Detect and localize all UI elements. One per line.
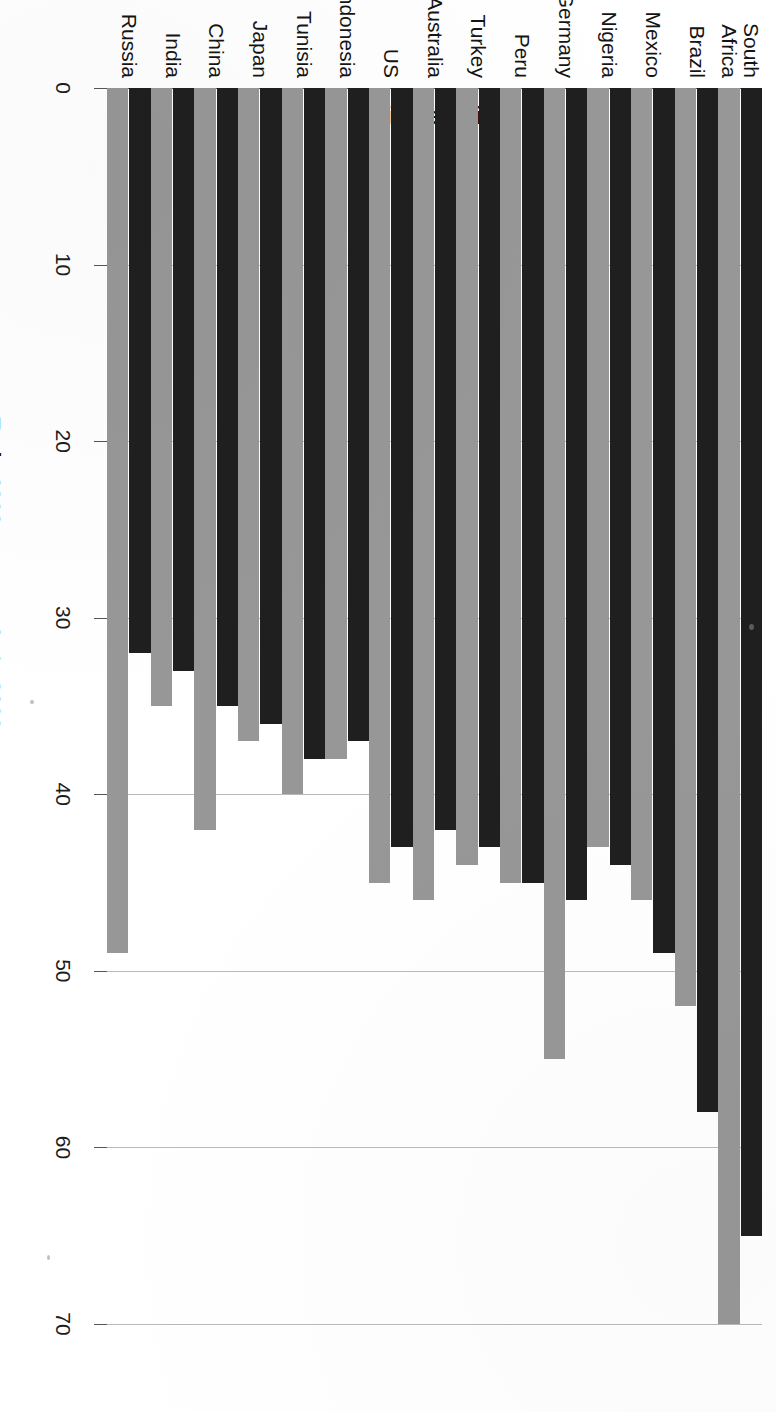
- bar-group: Japan: [238, 88, 282, 1324]
- bar-australia-early-1990s: [435, 88, 456, 830]
- bar-group: India: [151, 88, 195, 1324]
- category-label-brazil: Brazil: [685, 25, 707, 78]
- bar-germany-early-1990s: [566, 88, 587, 900]
- bar-brazil-early-1990s: [697, 88, 718, 1112]
- category-label-peru: Peru: [511, 34, 533, 78]
- bar-south-africa-early-1990s: [741, 88, 762, 1236]
- category-label-us: US: [380, 49, 402, 78]
- tick-label-10: 10: [51, 253, 75, 276]
- bar-group: Turkey: [456, 88, 500, 1324]
- bar-indonesia-late-2000s: [325, 88, 346, 759]
- gridline-70: [107, 1324, 762, 1325]
- bar-us-early-1990s: [392, 88, 413, 847]
- bar-group: Mexico: [631, 88, 675, 1324]
- bar-tunisia-early-1990s: [304, 88, 325, 759]
- bar-nigeria-early-1990s: [610, 88, 631, 865]
- bar-group: China: [194, 88, 238, 1324]
- category-label-japan: Japan: [249, 21, 271, 78]
- tick-label-70: 70: [51, 1312, 75, 1335]
- tick-label-50: 50: [51, 959, 75, 982]
- scan-speck: [30, 700, 34, 704]
- bar-russia-early-1990s: [130, 88, 151, 653]
- bar-tunisia-late-2000s: [282, 88, 303, 794]
- plot-area: Gini coefficient Early 1990sLate 2000s 0…: [107, 88, 762, 1324]
- bar-indonesia-early-1990s: [348, 88, 369, 741]
- bar-group: Tunisia: [282, 88, 326, 1324]
- legend-swatch-icon: [0, 601, 1, 618]
- legend-item-late-2000s: Late 2000s: [0, 601, 5, 742]
- category-label-germany: Germany: [554, 0, 576, 78]
- legend-label: Late 2000s: [0, 629, 5, 742]
- bar-group: South Africa: [718, 88, 762, 1324]
- bar-group: Australia: [413, 88, 457, 1324]
- tick-mark-70: [94, 1324, 107, 1325]
- bar-japan-late-2000s: [238, 88, 259, 741]
- bar-turkey-early-1990s: [479, 88, 500, 847]
- tick-mark-10: [94, 265, 107, 266]
- tick-label-60: 60: [51, 1136, 75, 1159]
- bar-india-late-2000s: [151, 88, 172, 706]
- category-label-india: India: [161, 32, 183, 78]
- tick-label-20: 20: [51, 429, 75, 452]
- category-label-russia: Russia: [118, 14, 140, 78]
- category-label-turkey: Turkey: [467, 15, 489, 78]
- tick-mark-0: [94, 88, 107, 89]
- bar-mexico-late-2000s: [631, 88, 652, 900]
- bar-group: Nigeria: [587, 88, 631, 1324]
- bar-group: Peru: [500, 88, 544, 1324]
- bar-japan-early-1990s: [261, 88, 282, 724]
- category-label-indonesia: Indonesia: [336, 0, 358, 78]
- bar-us-late-2000s: [369, 88, 390, 883]
- bar-china-early-1990s: [217, 88, 238, 706]
- chart-legend: Early 1990sLate 2000s: [0, 388, 5, 742]
- bar-australia-late-2000s: [413, 88, 434, 900]
- tick-mark-50: [94, 971, 107, 972]
- category-label-nigeria: Nigeria: [598, 11, 620, 78]
- category-label-australia: Australia: [423, 0, 445, 78]
- bar-peru-late-2000s: [500, 88, 521, 883]
- bar-india-early-1990s: [173, 88, 194, 671]
- scan-speck: [749, 624, 754, 630]
- bar-germany-late-2000s: [544, 88, 565, 1059]
- scanned-page: Gini coefficient Early 1990sLate 2000s 0…: [0, 0, 776, 1412]
- bar-brazil-late-2000s: [675, 88, 696, 1006]
- bar-south-africa-late-2000s: [718, 88, 739, 1324]
- bar-mexico-early-1990s: [654, 88, 675, 953]
- tick-mark-20: [94, 441, 107, 442]
- bar-group: Germany: [544, 88, 588, 1324]
- category-label-china: China: [205, 23, 227, 78]
- bar-group: US: [369, 88, 413, 1324]
- bar-turkey-late-2000s: [456, 88, 477, 865]
- tick-label-30: 30: [51, 606, 75, 629]
- scan-speck: [47, 1255, 50, 1260]
- tick-label-0: 0: [51, 82, 75, 94]
- gini-coefficient-bar-chart: Gini coefficient Early 1990sLate 2000s 0…: [0, 0, 776, 1412]
- bar-group: Indonesia: [325, 88, 369, 1324]
- category-label-south-africa: South Africa: [718, 23, 762, 78]
- bar-group: Russia: [107, 88, 151, 1324]
- legend-label: Early 1990s: [0, 416, 5, 537]
- category-label-mexico: Mexico: [642, 11, 664, 78]
- bar-china-late-2000s: [194, 88, 215, 830]
- tick-mark-60: [94, 1147, 107, 1148]
- legend-item-early-1990s: Early 1990s: [0, 388, 5, 537]
- bar-peru-early-1990s: [523, 88, 544, 883]
- tick-mark-40: [94, 794, 107, 795]
- tick-label-40: 40: [51, 783, 75, 806]
- category-label-tunisia: Tunisia: [292, 11, 314, 78]
- bar-group: Brazil: [675, 88, 719, 1324]
- tick-mark-30: [94, 618, 107, 619]
- legend-swatch-icon: [0, 388, 1, 405]
- bar-nigeria-late-2000s: [587, 88, 608, 847]
- bar-russia-late-2000s: [107, 88, 128, 953]
